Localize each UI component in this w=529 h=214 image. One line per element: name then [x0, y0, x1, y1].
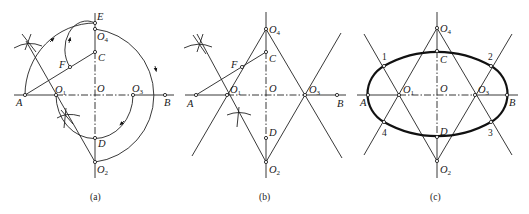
tangent-point-4: [382, 120, 385, 123]
label-o2: O2: [97, 164, 109, 177]
label-o2: O2: [269, 164, 281, 177]
point-o1: [397, 93, 400, 96]
label-o: O: [97, 83, 105, 94]
point-d: [93, 136, 96, 139]
label-o2: O2: [440, 164, 452, 177]
label-b: B: [337, 98, 344, 109]
label-c: C: [98, 52, 106, 63]
label-c: C: [269, 53, 277, 64]
label-o4: O4: [97, 31, 109, 44]
tangent-point-2: [489, 64, 492, 67]
perpendicular-bisector: [197, 34, 266, 162]
ellipse-construction-figure: E O4 C F A O1 O O3 B D O2 (a): [0, 0, 529, 214]
label-d: D: [268, 127, 277, 138]
label-b: B: [509, 97, 516, 108]
point-c: [435, 49, 438, 52]
arc-o3-to-o1: [56, 95, 133, 139]
point-f: [240, 65, 243, 68]
bisector-arc-mark: [227, 113, 251, 116]
point-d: [435, 135, 438, 138]
tangent-point-3: [489, 120, 492, 123]
point-o2: [264, 160, 267, 163]
label-f: F: [230, 59, 238, 70]
point-c: [264, 50, 267, 53]
panel-c: O4 C A O1 O O3 B D O2 1 2 3 4 (c): [357, 12, 518, 203]
point-o3: [303, 93, 306, 96]
label-point-1: 1: [382, 52, 387, 62]
label-b: B: [164, 97, 171, 108]
arc-direction-arrow: [69, 39, 70, 43]
label-o4: O4: [269, 24, 281, 37]
label-a: A: [15, 97, 23, 108]
point-o4: [435, 26, 438, 29]
panel-a: E O4 C F A O1 O O3 B D O2 (a): [14, 11, 174, 203]
label-d: D: [97, 138, 106, 149]
panel-b: O4 C F A O1 O O3 B D O2 (b): [184, 12, 346, 203]
arc-direction-arrow: [155, 66, 156, 70]
caption-b: (b): [259, 192, 270, 203]
label-o4: O4: [440, 23, 452, 36]
bisector-arc-mark: [184, 44, 212, 48]
caption-c: (c): [430, 192, 441, 203]
label-c: C: [440, 54, 448, 65]
label-o: O: [440, 83, 448, 94]
label-point-4: 4: [382, 128, 387, 138]
bisector-arc-mark: [64, 108, 66, 128]
label-d: D: [439, 126, 448, 137]
label-a: A: [359, 97, 367, 108]
point-o4: [264, 27, 267, 30]
caption-a: (a): [90, 192, 101, 203]
ellipse-arc-top: [384, 52, 491, 66]
label-a: A: [186, 98, 194, 109]
point-a: [23, 93, 26, 96]
label-point-2: 2: [488, 52, 493, 62]
point-d: [264, 136, 267, 139]
ellipse-arc-bottom: [384, 122, 491, 136]
line-o2-o3-extended: [266, 33, 341, 162]
label-point-3: 3: [488, 128, 493, 138]
bisector-arc-mark: [22, 34, 36, 52]
tangent-point-1: [382, 64, 385, 67]
point-b: [335, 93, 338, 96]
point-o1: [225, 93, 228, 96]
point-f: [68, 65, 71, 68]
point-c: [93, 50, 96, 53]
ellipse-arc-left: [367, 66, 384, 122]
label-f: F: [58, 59, 66, 70]
line-o4-o1-extended: [192, 29, 266, 156]
point-o2: [435, 159, 438, 162]
point-a: [366, 93, 369, 96]
label-o: O: [269, 83, 277, 94]
label-e: E: [96, 11, 104, 22]
point-a: [194, 93, 197, 96]
ellipse-arc-right: [491, 66, 508, 122]
point-o3: [473, 93, 476, 96]
